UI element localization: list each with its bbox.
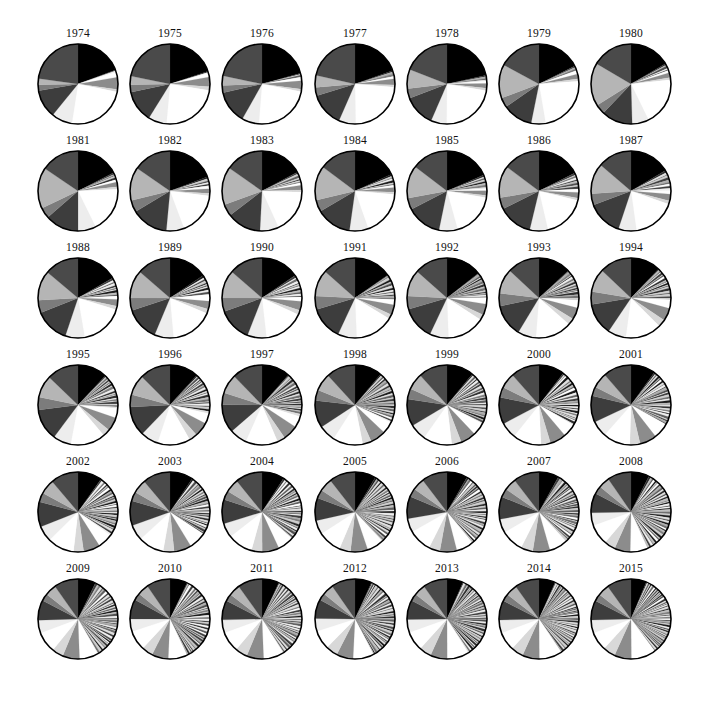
pie-chart <box>496 255 582 341</box>
pie-slice <box>539 81 579 123</box>
pie-year-label: 2002 <box>32 455 124 468</box>
pie-chart <box>588 255 674 341</box>
pie-year-label: 1984 <box>309 134 401 147</box>
pie-chart <box>588 362 674 448</box>
pie-panel: 2005 <box>309 455 401 553</box>
pie-canvas <box>493 362 585 446</box>
pie-panel: 2015 <box>585 562 677 660</box>
pie-canvas <box>585 148 677 232</box>
pie-canvas <box>216 576 308 660</box>
pie-year-label: 1994 <box>585 241 677 254</box>
pie-year-label: 1978 <box>401 27 493 40</box>
pie-chart <box>219 148 305 234</box>
pie-panel: 2008 <box>585 455 677 553</box>
pie-canvas <box>309 576 401 660</box>
pie-chart <box>312 255 398 341</box>
pie-canvas <box>32 255 124 339</box>
pie-panel: 1998 <box>309 348 401 446</box>
pie-panel: 2001 <box>585 348 677 446</box>
pie-chart <box>127 362 213 448</box>
pie-canvas <box>585 362 677 446</box>
pie-panel: 2002 <box>32 455 124 553</box>
pie-canvas <box>401 576 493 660</box>
pie-panel: 2014 <box>493 562 585 660</box>
pie-chart <box>496 41 582 127</box>
pie-chart <box>35 255 121 341</box>
pie-year-label: 2014 <box>493 562 585 575</box>
pie-year-label: 1998 <box>309 348 401 361</box>
pie-year-label: 2001 <box>585 348 677 361</box>
pie-panel: 1986 <box>493 134 585 232</box>
pie-panel: 1997 <box>216 348 308 446</box>
pie-chart <box>404 469 490 555</box>
pie-canvas <box>493 41 585 125</box>
pie-slice <box>166 84 209 124</box>
pie-year-label: 1982 <box>124 134 216 147</box>
pie-panel: 1974 <box>32 27 124 125</box>
pie-panel: 1999 <box>401 348 493 446</box>
pie-canvas <box>32 576 124 660</box>
pie-year-label: 2007 <box>493 455 585 468</box>
pie-canvas <box>124 362 216 446</box>
pie-panel: 1978 <box>401 27 493 125</box>
pie-year-label: 1987 <box>585 134 677 147</box>
pie-canvas <box>124 148 216 232</box>
pie-year-label: 2010 <box>124 562 216 575</box>
pie-year-label: 2003 <box>124 455 216 468</box>
pie-chart <box>219 41 305 127</box>
pie-year-label: 1992 <box>401 241 493 254</box>
pie-year-label: 2013 <box>401 562 493 575</box>
pie-canvas <box>124 576 216 660</box>
pie-panel: 1976 <box>216 27 308 125</box>
pie-panel: 1984 <box>309 134 401 232</box>
pie-year-label: 1983 <box>216 134 308 147</box>
pie-year-label: 2015 <box>585 562 677 575</box>
pie-panel: 1992 <box>401 241 493 339</box>
pie-canvas <box>493 576 585 660</box>
pie-panel: 2004 <box>216 455 308 553</box>
pie-chart <box>496 576 582 662</box>
pie-year-label: 2000 <box>493 348 585 361</box>
pie-chart <box>35 41 121 127</box>
pie-year-label: 2004 <box>216 455 308 468</box>
pie-canvas <box>401 362 493 446</box>
pie-canvas <box>32 148 124 232</box>
pie-panel: 1983 <box>216 134 308 232</box>
pie-year-label: 2012 <box>309 562 401 575</box>
pie-panel: 1993 <box>493 241 585 339</box>
pie-panel: 2011 <box>216 562 308 660</box>
pie-chart <box>496 362 582 448</box>
pie-canvas <box>216 362 308 446</box>
pie-chart <box>127 41 213 127</box>
pie-year-label: 1975 <box>124 27 216 40</box>
pie-year-label: 2011 <box>216 562 308 575</box>
pie-chart <box>35 362 121 448</box>
pie-slice <box>447 84 487 124</box>
pie-chart <box>35 469 121 555</box>
pie-panel: 1991 <box>309 241 401 339</box>
pie-panel: 2000 <box>493 348 585 446</box>
pie-chart <box>404 255 490 341</box>
pie-chart <box>588 41 674 127</box>
pie-canvas <box>32 41 124 125</box>
pie-canvas <box>401 255 493 339</box>
pie-canvas <box>32 362 124 446</box>
pie-panel: 1988 <box>32 241 124 339</box>
pie-canvas <box>401 148 493 232</box>
pie-panel: 2013 <box>401 562 493 660</box>
pie-canvas <box>309 469 401 553</box>
pie-chart <box>219 469 305 555</box>
pie-canvas <box>32 469 124 553</box>
pie-chart <box>312 362 398 448</box>
pie-panel: 1985 <box>401 134 493 232</box>
pie-panel: 2003 <box>124 455 216 553</box>
pie-year-label: 1995 <box>32 348 124 361</box>
pie-panel: 1979 <box>493 27 585 125</box>
pie-chart <box>404 41 490 127</box>
pie-chart <box>127 148 213 234</box>
pie-panel: 1989 <box>124 241 216 339</box>
pie-canvas <box>585 41 677 125</box>
pie-canvas <box>216 41 308 125</box>
pie-year-label: 1990 <box>216 241 308 254</box>
pie-year-label: 1974 <box>32 27 124 40</box>
